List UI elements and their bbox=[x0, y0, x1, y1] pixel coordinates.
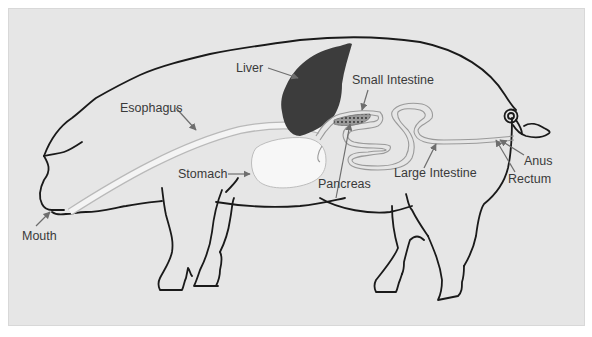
stomach-label: Stomach bbox=[178, 168, 227, 181]
pancreas-shape bbox=[334, 114, 370, 126]
mouth-label: Mouth bbox=[22, 230, 57, 243]
pig-digestive-diagram bbox=[0, 0, 592, 337]
esophagus-label: Esophagus bbox=[120, 102, 183, 115]
anus-label: Anus bbox=[524, 155, 553, 168]
large-intestine-label: Large Intestine bbox=[394, 167, 477, 180]
stomach-shape bbox=[252, 137, 327, 187]
rectum-label: Rectum bbox=[508, 173, 551, 186]
pancreas-label: Pancreas bbox=[318, 178, 371, 191]
liver-label: Liver bbox=[236, 62, 263, 75]
small-intestine-label: Small Intestine bbox=[352, 74, 434, 87]
small-intestine-shape bbox=[316, 103, 514, 170]
